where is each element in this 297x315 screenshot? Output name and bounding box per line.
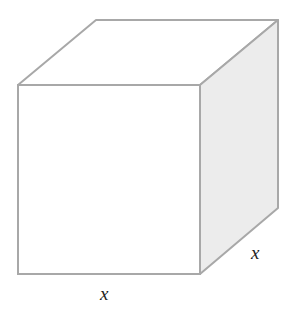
cube-figure — [0, 0, 297, 315]
depth-edge-label: x — [251, 243, 259, 262]
bottom-edge-label: x — [100, 284, 108, 303]
cube-front-face — [18, 85, 200, 274]
